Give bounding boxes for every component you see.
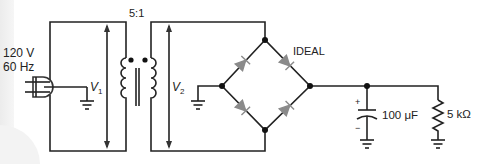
- v2-label: V2: [172, 80, 185, 96]
- ground-icon-res: [431, 140, 445, 148]
- transformer-ratio-label: 5:1: [129, 7, 144, 19]
- polarity-dot-primary: [128, 57, 133, 62]
- resistor-value: 5 kΩ: [447, 108, 471, 120]
- ground-icon-bridge: [191, 101, 205, 109]
- capacitor-value: 100 μF: [382, 109, 418, 121]
- source-voltage-label: 120 V: [3, 46, 34, 60]
- capacitor-plus: +: [355, 97, 360, 107]
- secondary-coil: [151, 58, 156, 104]
- polarity-dot-secondary: [142, 57, 147, 62]
- v1-label: V1: [90, 80, 103, 96]
- primary-wire: [50, 22, 126, 80]
- bridge-label: IDEAL: [293, 45, 325, 57]
- primary-coil: [121, 58, 126, 104]
- resistor-icon: [433, 100, 443, 140]
- capacitor-minus: −: [355, 123, 360, 133]
- circuit-diagram: 120 V 60 Hz 5:1 V1 V2 IDEAL + − 100 μF 5…: [0, 0, 485, 164]
- ground-icon-primary: [80, 101, 94, 109]
- ground-icon-cap: [360, 140, 374, 148]
- source-frequency-label: 60 Hz: [3, 60, 34, 74]
